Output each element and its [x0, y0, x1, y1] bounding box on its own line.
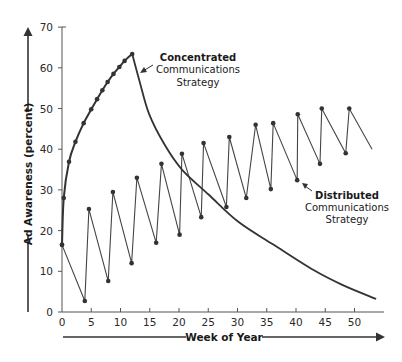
- distributed-point: [244, 196, 249, 201]
- concentrated-point: [81, 121, 86, 126]
- concentrated-rise-curve: [62, 54, 132, 245]
- pointer-arrow-icon: [140, 67, 147, 73]
- distributed-point: [87, 207, 92, 212]
- x-tick-label: 5: [88, 316, 95, 328]
- concentrated-decay-curve: [132, 54, 376, 299]
- distributed-point: [201, 141, 206, 146]
- concentrated-label-line1: Communications: [156, 64, 240, 75]
- annotation-concentrated: Concentrated Communications Strategy: [140, 52, 240, 88]
- x-tick-label: 45: [319, 316, 332, 328]
- distributed-point: [227, 135, 232, 140]
- concentrated-point: [105, 80, 110, 85]
- x-tick-label: 10: [114, 316, 127, 328]
- concentrated-point: [117, 65, 122, 70]
- distributed-point: [343, 151, 348, 156]
- y-tick-label: 30: [40, 184, 53, 196]
- distributed-point: [106, 279, 111, 284]
- distributed-point: [154, 241, 159, 246]
- concentrated-point: [61, 196, 66, 201]
- concentrated-point: [73, 140, 78, 145]
- distributed-point: [177, 232, 182, 237]
- concentrated-point: [130, 52, 135, 57]
- distributed-label-bold: Distributed: [315, 190, 379, 201]
- y-tick-label: 60: [40, 62, 53, 74]
- x-tick-label: 50: [348, 316, 361, 328]
- concentrated-point: [60, 243, 65, 248]
- distributed-point: [159, 162, 164, 167]
- y-tick-label: 40: [40, 143, 53, 155]
- distributed-point: [295, 178, 300, 183]
- x-tick-label: 30: [231, 316, 244, 328]
- concentrated-point: [111, 72, 116, 77]
- ad-awareness-chart: 010203040506070 05101520253035404550 Ad …: [0, 0, 402, 362]
- concentrated-point: [122, 59, 127, 64]
- distributed-point: [111, 190, 116, 195]
- x-tick-label: 20: [172, 316, 185, 328]
- distributed-point: [180, 151, 185, 156]
- arrow-right-icon: [376, 333, 385, 342]
- y-tick-label: 10: [40, 265, 53, 277]
- annotation-distributed: Distributed Communications Strategy: [302, 183, 389, 225]
- series-concentrated: [60, 52, 376, 299]
- concentrated-label-bold: Concentrated: [160, 52, 236, 63]
- concentrated-label-line2: Strategy: [177, 77, 220, 88]
- concentrated-point: [100, 88, 105, 93]
- concentrated-point: [95, 97, 100, 102]
- distributed-point: [83, 299, 88, 304]
- y-axis-title: Ad Awareness (percent): [22, 103, 34, 246]
- distributed-point: [135, 175, 140, 180]
- distributed-point: [199, 215, 204, 220]
- arrow-up-icon: [24, 27, 33, 36]
- x-tick-label: 0: [59, 316, 66, 328]
- y-tick-label: 70: [40, 21, 53, 33]
- distributed-point: [319, 106, 324, 111]
- x-ticks: 05101520253035404550: [59, 308, 362, 328]
- x-tick-label: 40: [289, 316, 302, 328]
- distributed-label-line1: Communications: [305, 202, 389, 213]
- distributed-point: [347, 106, 352, 111]
- x-tick-label: 25: [202, 316, 215, 328]
- concentrated-point: [67, 160, 72, 165]
- y-tick-label: 0: [46, 306, 53, 318]
- distributed-point: [224, 205, 229, 210]
- y-axis-title-group: Ad Awareness (percent): [22, 27, 34, 312]
- distributed-point: [295, 112, 300, 117]
- distributed-label-line2: Strategy: [326, 214, 369, 225]
- x-tick-label: 35: [260, 316, 273, 328]
- concentrated-point: [89, 107, 94, 112]
- distributed-point: [269, 187, 274, 192]
- x-axis-title: Week of Year: [185, 331, 263, 343]
- y-ticks: 010203040506070: [40, 21, 62, 318]
- x-axis-title-group: Week of Year: [63, 331, 385, 343]
- distributed-point: [318, 162, 323, 167]
- distributed-point: [129, 261, 134, 266]
- distributed-point: [253, 122, 258, 127]
- y-tick-label: 20: [40, 225, 53, 237]
- distributed-point: [271, 121, 276, 126]
- chart-canvas: 010203040506070 05101520253035404550 Ad …: [0, 0, 402, 362]
- y-tick-label: 50: [40, 103, 53, 115]
- x-tick-label: 15: [143, 316, 156, 328]
